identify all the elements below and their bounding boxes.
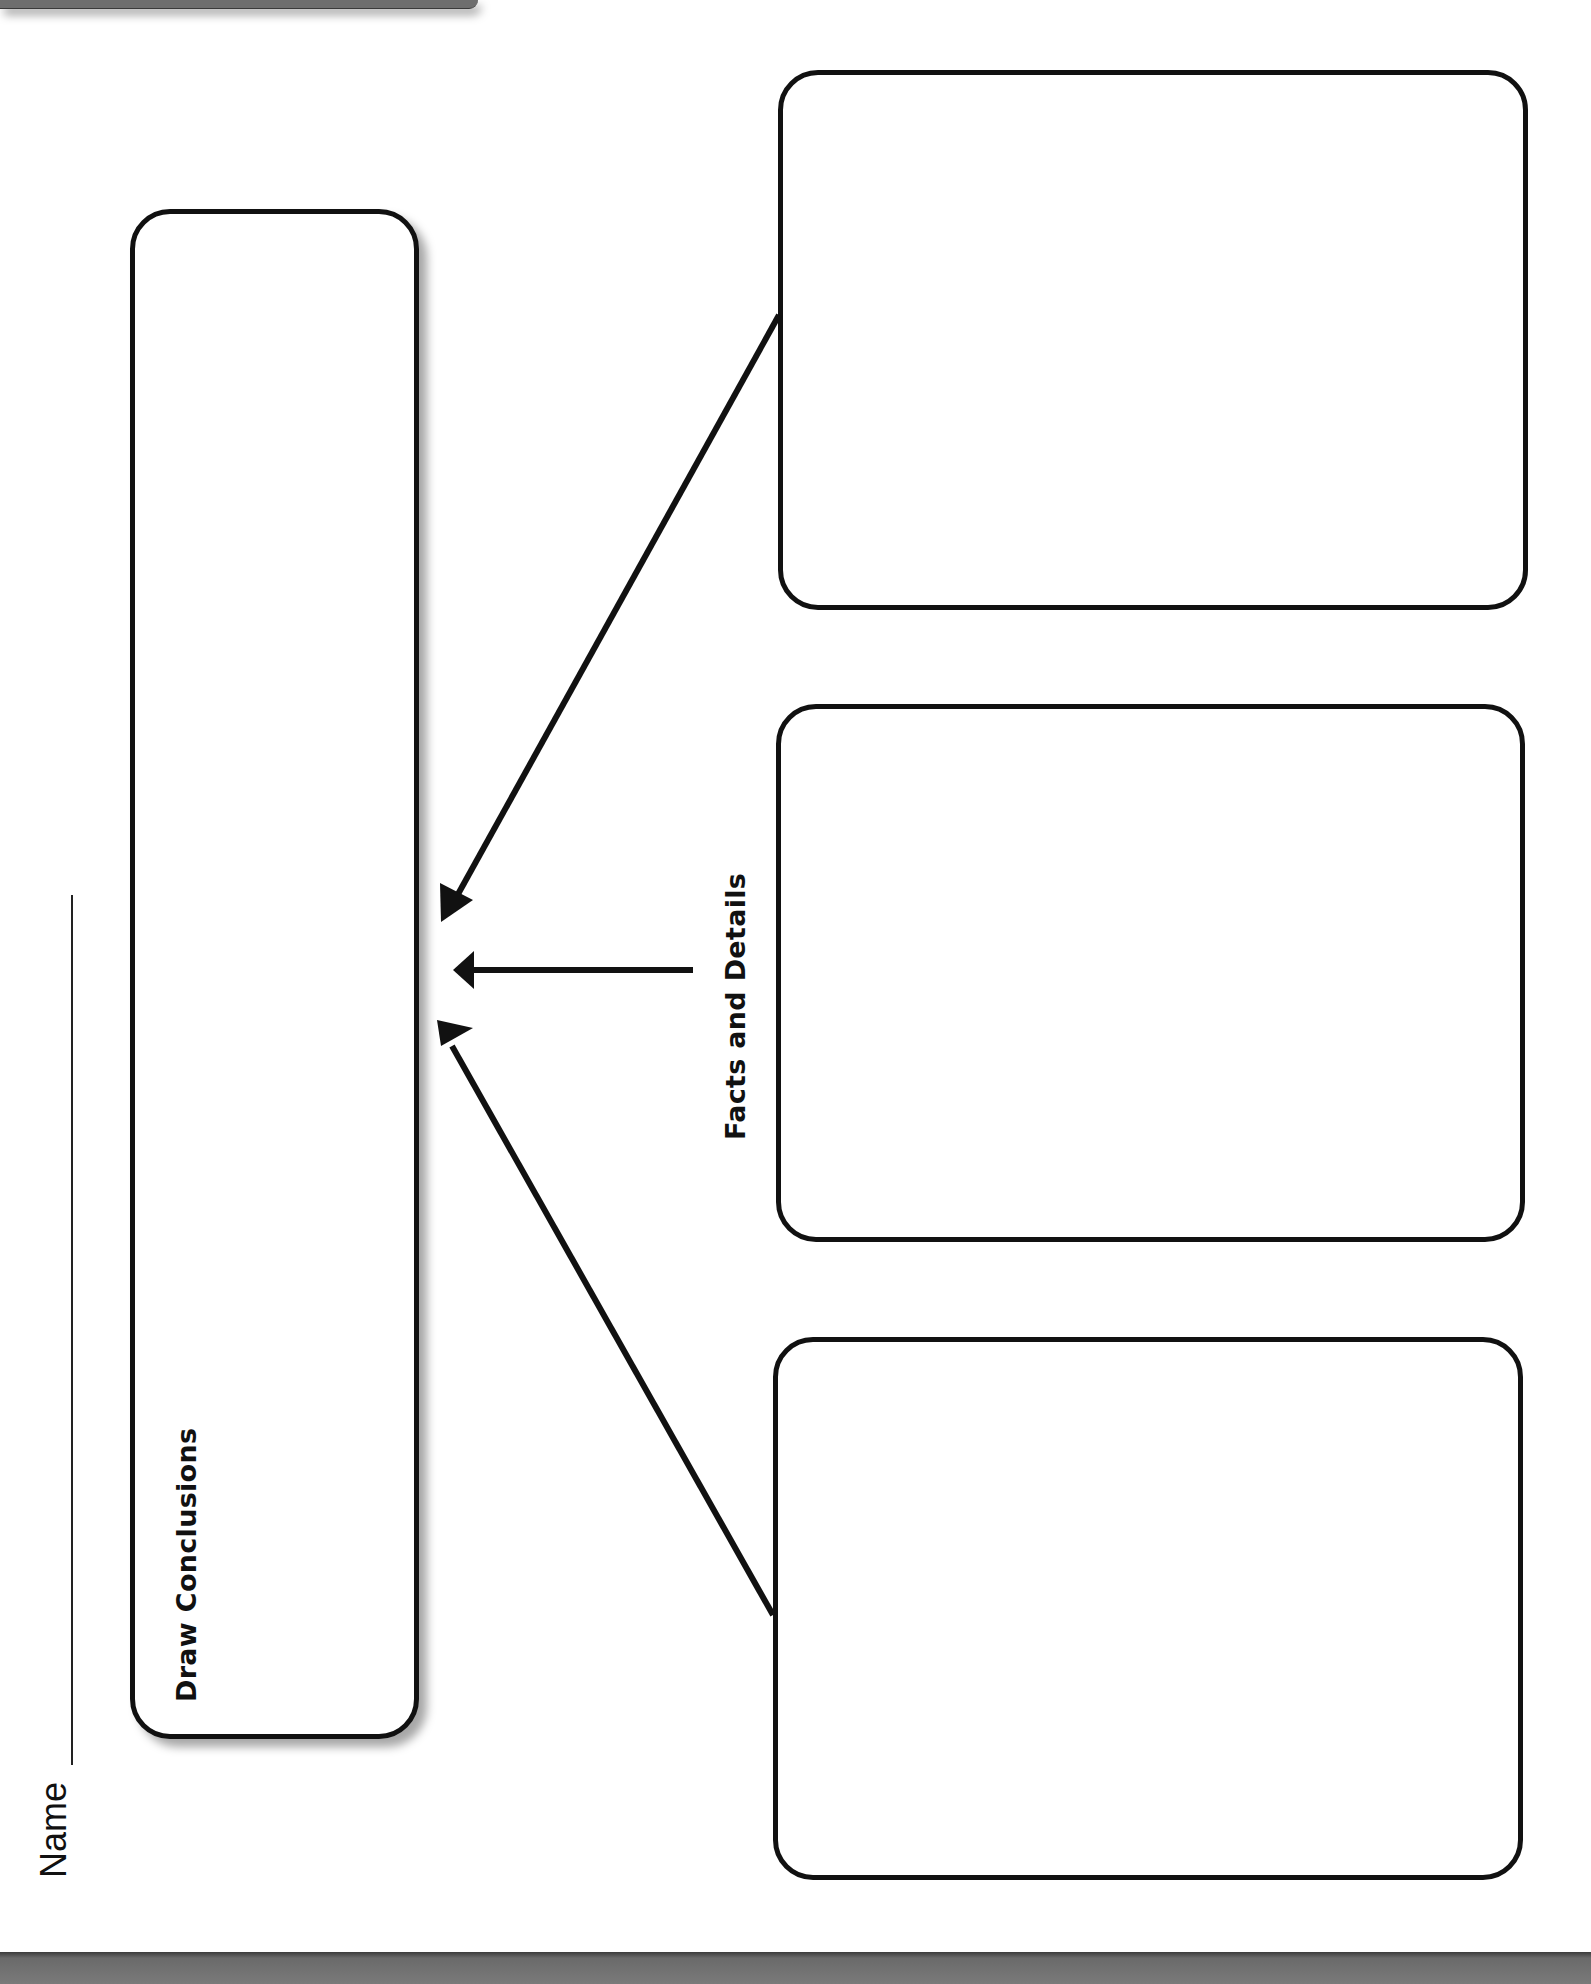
arrow-top-icon [440,315,779,922]
page-footer-bar [0,1952,1591,1984]
name-write-line[interactable] [71,895,73,1765]
fact-box-2[interactable] [776,704,1525,1242]
fact-box-1[interactable] [778,70,1528,610]
page-header-tab [0,0,478,9]
conclusion-box-label: Draw Conclusions [172,1428,202,1702]
name-label: Name [36,1782,72,1878]
fact-box-3[interactable] [773,1337,1523,1880]
arrow-middle-icon [453,951,693,989]
facts-and-details-label: Facts and Details [721,873,751,1140]
